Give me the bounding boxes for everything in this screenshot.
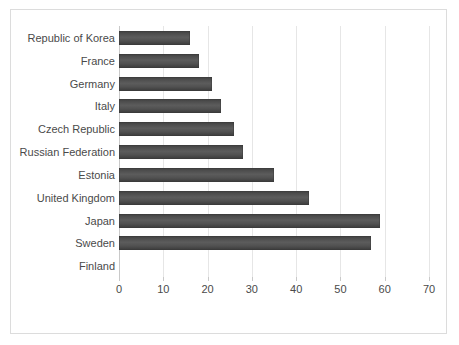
axis-tick-mark xyxy=(296,277,297,281)
bar-row xyxy=(119,186,429,211)
gridline xyxy=(429,26,430,277)
bar xyxy=(119,31,190,45)
bar xyxy=(119,191,309,205)
category-axis-labels: Republic of KoreaFranceGermanyItalyCzech… xyxy=(11,26,115,277)
category-label: Finland xyxy=(11,254,115,279)
bar xyxy=(119,145,243,159)
bar xyxy=(119,168,274,182)
category-label: Republic of Korea xyxy=(11,26,115,51)
axis-tick-mark xyxy=(208,277,209,281)
bar xyxy=(119,236,371,250)
category-label: Sweden xyxy=(11,231,115,256)
bar xyxy=(119,122,234,136)
bar-series xyxy=(119,26,429,277)
bar xyxy=(119,99,221,113)
axis-tick-label: 50 xyxy=(325,283,355,295)
bar-row xyxy=(119,140,429,165)
axis-tick-mark xyxy=(340,277,341,281)
plot-area: Republic of KoreaFranceGermanyItalyCzech… xyxy=(11,10,446,333)
bar-row xyxy=(119,209,429,234)
chart-frame: Republic of KoreaFranceGermanyItalyCzech… xyxy=(10,9,447,334)
axis-tick-label: 10 xyxy=(148,283,178,295)
axis-tick-mark xyxy=(252,277,253,281)
category-label: France xyxy=(11,49,115,74)
bar xyxy=(119,77,212,91)
bar-row xyxy=(119,117,429,142)
category-label: Czech Republic xyxy=(11,117,115,142)
axis-tick-label: 60 xyxy=(370,283,400,295)
bar-row xyxy=(119,94,429,119)
axis-tick-mark xyxy=(429,277,430,281)
axis-tick-label: 40 xyxy=(281,283,311,295)
bar-row xyxy=(119,26,429,51)
bar-row xyxy=(119,254,429,279)
axis-tick-label: 70 xyxy=(414,283,444,295)
category-label: Estonia xyxy=(11,163,115,188)
axis-tick-mark xyxy=(119,277,120,281)
category-label: United Kingdom xyxy=(11,186,115,211)
axis-tick-label: 0 xyxy=(104,283,134,295)
category-label: Russian Federation xyxy=(11,140,115,165)
axis-tick-mark xyxy=(385,277,386,281)
axis-tick-label: 20 xyxy=(193,283,223,295)
bar xyxy=(119,54,199,68)
bar-row xyxy=(119,231,429,256)
bar-row xyxy=(119,72,429,97)
value-axis: 010203040506070 xyxy=(119,277,429,307)
bar-row xyxy=(119,49,429,74)
category-label: Italy xyxy=(11,94,115,119)
category-label: Germany xyxy=(11,72,115,97)
bar-row xyxy=(119,163,429,188)
category-label: Japan xyxy=(11,209,115,234)
axis-tick-label: 30 xyxy=(237,283,267,295)
bar xyxy=(119,214,380,228)
axis-tick-mark xyxy=(163,277,164,281)
